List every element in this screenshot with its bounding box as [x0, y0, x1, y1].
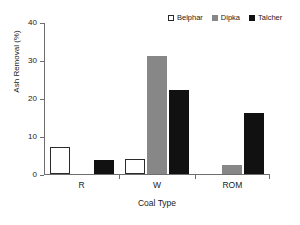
bar-belphar-w: [125, 159, 145, 174]
legend-swatch-talcher: [249, 15, 255, 21]
legend-swatch-dipka: [212, 15, 218, 21]
chart-legend: Belphar Dipka Talcher: [168, 14, 282, 22]
y-axis-tick: 0: [40, 175, 44, 176]
x-axis-tick: [119, 175, 120, 179]
x-axis-group-label-r: R: [79, 180, 85, 190]
bar-dipka-w: [147, 56, 167, 174]
y-axis-tick: 10: [40, 137, 44, 138]
legend-swatch-belphar: [168, 15, 174, 21]
legend-item-talcher: Talcher: [249, 14, 282, 22]
legend-label-belphar: Belphar: [177, 14, 203, 22]
y-axis-line: [44, 23, 45, 175]
y-axis-tick: 40: [40, 23, 44, 24]
bar-chart: Belphar Dipka Talcher Ash Removal (%) 01…: [0, 0, 300, 225]
bar-dipka-rom: [222, 165, 242, 175]
y-axis-title: Ash Removal (%): [12, 12, 21, 112]
plot-area: 010203040RWROM: [44, 23, 270, 175]
x-axis-title: Coal Type: [44, 198, 270, 208]
legend-item-dipka: Dipka: [212, 14, 240, 22]
y-axis-tick: 20: [40, 99, 44, 100]
y-axis-tick-label: 20: [28, 94, 37, 103]
bar-talcher-r: [94, 160, 114, 174]
x-axis-tick: [195, 175, 196, 179]
bar-talcher-rom: [244, 113, 264, 174]
y-axis-tick-label: 40: [28, 18, 37, 27]
bar-talcher-w: [169, 90, 189, 174]
y-axis-tick-label: 30: [28, 56, 37, 65]
x-axis-line: [44, 174, 270, 175]
bar-belphar-r: [50, 147, 70, 174]
x-axis-tick: [269, 175, 270, 179]
legend-label-dipka: Dipka: [221, 14, 240, 22]
x-axis-group-label-w: W: [153, 180, 161, 190]
y-axis-tick-label: 0: [33, 170, 37, 179]
x-axis-group-label-rom: ROM: [222, 180, 242, 190]
legend-label-talcher: Talcher: [258, 14, 282, 22]
y-axis-tick-label: 10: [28, 132, 37, 141]
y-axis-tick: 30: [40, 61, 44, 62]
legend-item-belphar: Belphar: [168, 14, 203, 22]
